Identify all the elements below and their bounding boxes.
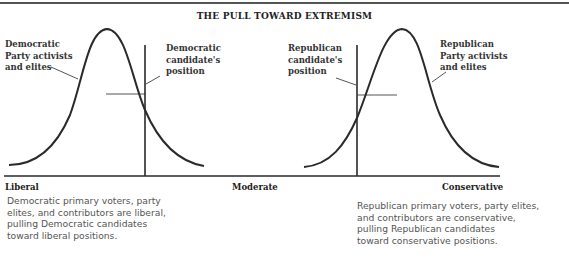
democratic-caption: Democratic primary voters, party elites,…: [7, 195, 166, 241]
axis-label-liberal: Liberal: [5, 182, 39, 192]
democratic-candidate-label: Democratic candidate's position: [166, 43, 221, 78]
republican-activists-leader-line: [432, 72, 446, 82]
axis-label-moderate: Moderate: [232, 182, 278, 192]
republican-activists-label: Republican Party activists and elites: [440, 39, 507, 74]
pull-toward-extremism-figure: THE PULL TOWARD EXTREMISM Democratic Par…: [0, 0, 569, 263]
axis-label-conservative: Conservative: [442, 182, 503, 192]
republican-candidate-label: Republican candidate's position: [288, 43, 342, 78]
republican-candidate-leader-line: [336, 78, 356, 85]
democratic-candidate-leader-line: [146, 76, 160, 84]
democratic-activists-label: Democratic Party activists and elites: [5, 39, 72, 74]
republican-caption: Republican primary voters, party elites,…: [357, 200, 539, 246]
